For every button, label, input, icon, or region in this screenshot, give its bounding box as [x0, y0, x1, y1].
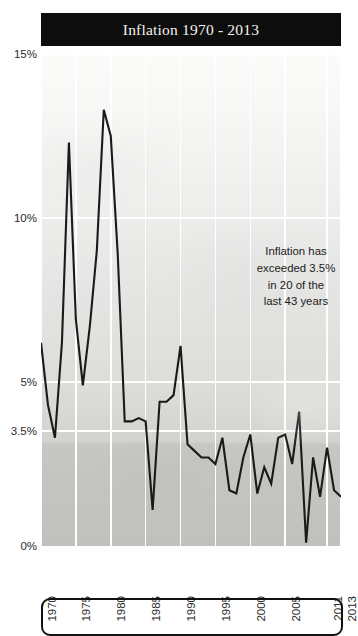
plot-area: Inflation has exceeded 3.5% in 20 of the… — [41, 54, 341, 546]
page-title: Inflation 1970 - 2013 — [123, 21, 259, 39]
inflation-line — [41, 110, 341, 543]
x-axis-tick-label: 2013 — [346, 596, 358, 622]
y-axis-tick-label: 5% — [0, 376, 37, 388]
y-axis-tick-label: 10% — [0, 212, 37, 224]
y-axis-tick-label: 15% — [0, 48, 37, 60]
x-axis: 1970197519801985199019952000200520112013 — [41, 546, 341, 602]
y-axis-tick-label: 0% — [0, 540, 37, 552]
y-axis-tick-label: 3.5% — [0, 425, 37, 437]
chart-title-bar: Inflation 1970 - 2013 — [41, 13, 341, 46]
y-axis: 15%10%5%3.5%0% — [0, 54, 37, 546]
bottom-caption-box — [41, 598, 343, 636]
annotation-text: Inflation has exceeded 3.5% in 20 of the… — [237, 243, 341, 310]
